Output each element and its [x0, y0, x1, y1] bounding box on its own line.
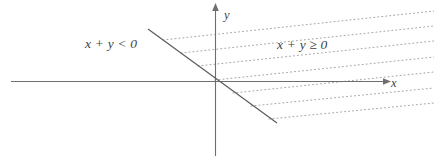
hatch-line [269, 103, 434, 119]
region-label-positive: x + y ≥ 0 [277, 38, 328, 52]
x-axis-label: x [391, 77, 397, 90]
region-label-negative: x + y < 0 [85, 37, 137, 51]
y-axis-label: y [224, 9, 230, 22]
diagram-canvas [0, 0, 434, 156]
inequality-diagram: x + y < 0 x + y ≥ 0 x y [0, 0, 434, 156]
hatch-line [163, 11, 434, 40]
hatch-line [215, 57, 434, 80]
boundary-line [148, 29, 277, 123]
x-axis-arrowhead [383, 78, 391, 85]
y-axis-arrowhead [212, 3, 219, 11]
hatch-line [251, 88, 434, 106]
axes-group [11, 3, 391, 156]
hatching-group [163, 11, 434, 119]
